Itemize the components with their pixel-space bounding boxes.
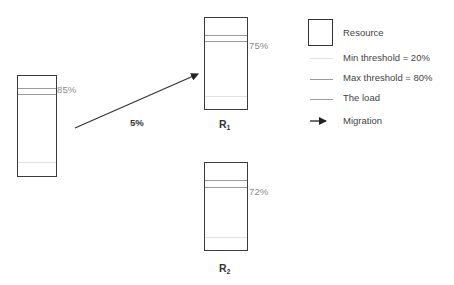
load-line-icon [310, 99, 333, 100]
r1-load-label: 75% [249, 40, 268, 51]
resource-r2-box [204, 162, 248, 251]
legend-min-threshold-label: Min threshold = 20% [343, 52, 430, 63]
max-threshold-line [205, 35, 247, 36]
r2-subscript: 2 [227, 268, 231, 275]
r1-name: R [219, 118, 227, 130]
max-threshold-line [205, 180, 247, 181]
r2-load-label: 72% [249, 186, 268, 197]
resource-r1-box [204, 17, 248, 110]
legend-resource-label: Resource [343, 27, 384, 38]
load-line [205, 187, 247, 188]
legend-migration-label: Migration [343, 115, 382, 126]
resource-box-icon [308, 19, 333, 46]
min-threshold-line-icon [310, 58, 333, 59]
min-threshold-line [205, 96, 247, 97]
r1-label: R1 [219, 118, 231, 131]
min-threshold-line [205, 237, 247, 238]
legend-max-threshold-label: Max threshold = 80% [343, 72, 433, 83]
max-threshold-line-icon [310, 79, 333, 80]
r2-name: R [219, 262, 227, 274]
r1-subscript: 1 [227, 124, 231, 131]
legend-load-label: The load [343, 92, 380, 103]
r2-label: R2 [219, 262, 231, 275]
load-line [205, 41, 247, 42]
migration-amount-label: 5% [130, 117, 144, 128]
